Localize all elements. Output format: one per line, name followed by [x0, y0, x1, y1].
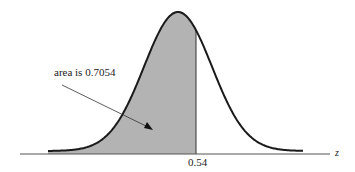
normal-curve-chart: [0, 0, 355, 172]
area-annotation: area is 0.7054: [54, 66, 115, 78]
shaded-area: [48, 12, 196, 154]
axis-label-z: z: [335, 147, 339, 158]
tick-label-054: 0.54: [188, 156, 207, 168]
